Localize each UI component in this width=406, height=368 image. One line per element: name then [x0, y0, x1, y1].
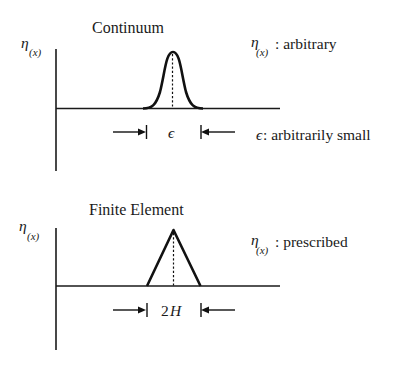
eta-symbol: η [19, 217, 27, 234]
finite-element-title: Finite Element [89, 201, 184, 218]
continuum-annotation-arbitrary: η (x) : arbitrary [251, 33, 337, 59]
finite-element-dimension: 2 H [113, 302, 235, 319]
continuum-panel: Continuum η (x) ϵ η (x) : arbitrary [21, 19, 371, 171]
eta-subscript: (x) [256, 244, 269, 257]
finite-element-annotation-prescribed: η (x) : prescribed [251, 231, 348, 257]
finite-element-panel: Finite Element η (x) 2 H η (x) : prescri… [19, 201, 348, 350]
finite-element-axis-label: η (x) [19, 217, 40, 243]
diagram-stage: Continuum η (x) ϵ η (x) : arbitrary [0, 0, 406, 368]
two-h-number: 2 [161, 302, 169, 319]
eta-subscript: (x) [27, 230, 40, 243]
eta-symbol: η [21, 34, 29, 51]
continuum-annotation-small: ϵ : arbitrarily small [256, 126, 371, 143]
right-pointing-arrowhead-icon [138, 129, 146, 136]
annotation-text: : prescribed [275, 233, 348, 250]
annotation-text: : arbitrarily small [263, 126, 371, 143]
epsilon-dimension-label: ϵ [168, 124, 175, 141]
epsilon-symbol: ϵ [256, 126, 263, 143]
annotation-text: : arbitrary [275, 35, 337, 52]
two-h-variable: H [169, 302, 182, 319]
eta-subscript: (x) [256, 46, 269, 59]
continuum-title: Continuum [92, 19, 165, 36]
eta-subscript: (x) [29, 46, 42, 59]
diagram-canvas: Continuum η (x) ϵ η (x) : arbitrary [0, 0, 406, 368]
continuum-dimension: ϵ [113, 124, 235, 141]
continuum-axis-label: η (x) [21, 34, 42, 59]
right-pointing-arrowhead-icon [138, 307, 146, 314]
